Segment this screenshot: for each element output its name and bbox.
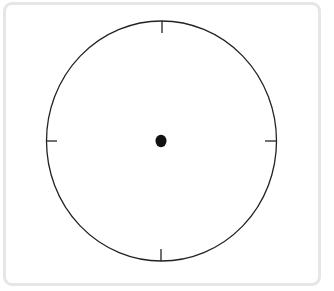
- center-dot-icon: [156, 135, 167, 147]
- clock-face-icon: [0, 0, 334, 291]
